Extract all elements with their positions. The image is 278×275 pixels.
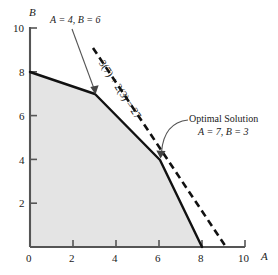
y-tick-label-8: 8 xyxy=(19,66,25,78)
extreme-point-annotation: A = 4, B = 6 xyxy=(50,14,101,26)
optimal-solution-values: A = 7, B = 3 xyxy=(198,126,249,138)
optimal-solution-leader-arrow xyxy=(156,120,188,159)
y-tick-label-2: 2 xyxy=(19,197,25,209)
extreme-point-leader-arrow xyxy=(72,29,99,95)
y-tick-label-10: 10 xyxy=(13,22,24,34)
y-tick-label-6: 6 xyxy=(19,110,25,122)
y-tick-label-4: 4 xyxy=(19,154,25,166)
x-tick-label-2: 2 xyxy=(69,252,75,264)
linear-programming-graph: 10 8 6 4 2 0 2 4 6 8 10 B A A = 4, B = 6… xyxy=(0,0,278,275)
feasible-region-shading xyxy=(30,72,202,247)
optimal-solution-title: Optimal Solution xyxy=(189,113,258,125)
x-tick-label-8: 8 xyxy=(198,252,204,264)
x-tick-label-6: 6 xyxy=(155,252,161,264)
x-tick-label-10: 10 xyxy=(238,252,249,264)
x-axis-label: A xyxy=(261,250,268,262)
x-tick-label-4: 4 xyxy=(112,252,118,264)
y-axis-label: B xyxy=(29,6,36,18)
x-tick-label-0: 0 xyxy=(26,252,32,264)
